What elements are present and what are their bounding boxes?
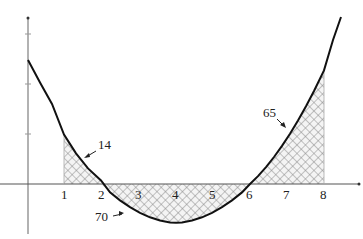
x-tick-label-8: 8 xyxy=(320,187,327,202)
area-diagram: 1 2 3 4 5 6 7 8 14 70 65 xyxy=(0,0,363,239)
shaded-region-right xyxy=(250,70,324,184)
annotation-65: 65 xyxy=(263,105,276,120)
x-tick-label-1: 1 xyxy=(61,187,68,202)
x-axis-arrow-icon xyxy=(358,183,361,186)
x-tick-label-6: 6 xyxy=(246,187,253,202)
x-tick-label-3: 3 xyxy=(135,187,142,202)
x-tick-label-2: 2 xyxy=(98,187,105,202)
arrowhead-70-icon xyxy=(119,211,124,216)
x-tick-label-4: 4 xyxy=(172,187,179,202)
arrowhead-14-icon xyxy=(84,153,90,158)
annotation-70: 70 xyxy=(95,209,108,224)
annotation-14: 14 xyxy=(98,137,112,152)
x-tick-label-7: 7 xyxy=(283,187,290,202)
y-axis-arrow-icon xyxy=(27,17,30,20)
x-tick-label-5: 5 xyxy=(209,187,216,202)
